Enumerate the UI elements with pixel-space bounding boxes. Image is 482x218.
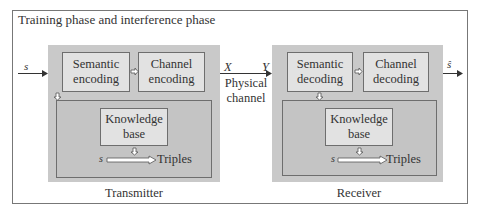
right-hollow-arrow-icon: [130, 67, 139, 76]
transmitter-kb-input-symbol: s: [99, 153, 103, 164]
receiver-kb-input-symbol: s: [331, 153, 335, 164]
input-symbol: s: [24, 60, 28, 72]
semantic-decoding-block: Semanticdecoding: [287, 52, 353, 92]
output-arrow-line: [443, 73, 458, 74]
semantic-decoding-line2: decoding: [297, 72, 343, 86]
receiver-label: Receiver: [325, 186, 393, 201]
channel-encoding-line1: Channel: [151, 57, 193, 71]
receiver-knowledge-base: Knowledgebase: [325, 108, 393, 146]
semantic-encoding-line2: encoding: [73, 72, 119, 86]
arrowhead-icon: [42, 70, 49, 77]
kb-line2: base: [348, 127, 370, 141]
kb-line2: base: [123, 127, 145, 141]
kb-line1: Knowledge: [105, 112, 163, 126]
channel-arrow-line: [220, 73, 268, 74]
semantic-encoding-line1: Semantic: [73, 57, 120, 71]
channel-decoding-line2: decoding: [373, 72, 419, 86]
channel-encoding-block: Channelencoding: [138, 52, 205, 92]
channel-decoding-line1: Channel: [375, 57, 417, 71]
arrowhead-icon: [457, 70, 464, 77]
long-hollow-arrow-icon: [106, 155, 158, 165]
long-hollow-arrow-icon: [337, 155, 389, 165]
physical-channel-label: Physicalchannel: [220, 76, 272, 106]
semantic-decoding-line1: Semantic: [297, 57, 344, 71]
diagram-title: Training phase and interference phase: [18, 12, 215, 28]
input-arrow-line: [18, 73, 44, 74]
receiver-triples-label: Triples: [386, 152, 421, 167]
channel-encoding-line2: encoding: [149, 72, 195, 86]
channel-decoding-block: Channeldecoding: [363, 52, 429, 92]
physical-channel-line1: Physical: [225, 76, 267, 90]
right-hollow-arrow-icon: [354, 67, 363, 76]
transmitter-triples-label: Triples: [157, 152, 192, 167]
kb-line1: Knowledge: [330, 112, 388, 126]
transmitter-label: Transmitter: [100, 186, 168, 201]
output-symbol: ŝ: [447, 58, 451, 70]
semantic-encoding-block: Semanticencoding: [62, 52, 130, 92]
physical-channel-line2: channel: [227, 91, 266, 105]
transmitter-knowledge-base: Knowledgebase: [100, 108, 168, 146]
